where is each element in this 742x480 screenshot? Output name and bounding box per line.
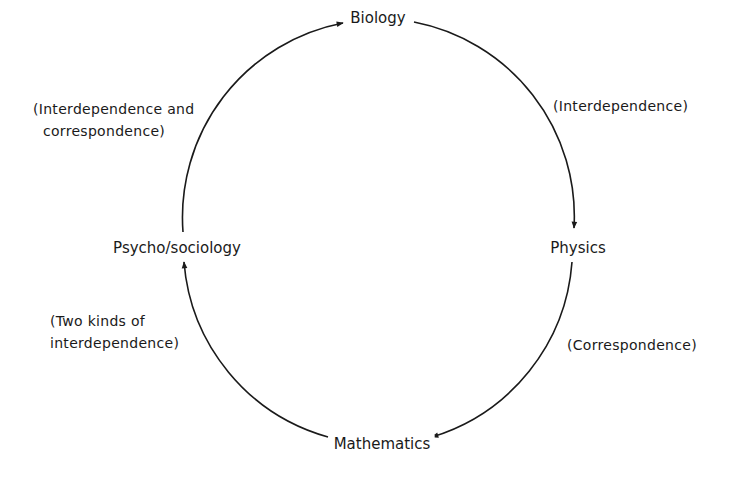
arrow-physics-to-mathematics (432, 262, 572, 437)
edge-label-two-kinds-interdependence: (Two kinds of interdependence) (50, 310, 179, 354)
edge-label-interdependence-and-correspondence: (Interdependence and correspondence) (33, 98, 194, 142)
edge-label-line: (Interdependence and (33, 98, 194, 120)
edge-label-line: (Interdependence) (553, 95, 688, 117)
edge-label-line: (Two kinds of (50, 310, 179, 332)
node-biology: Biology (346, 9, 409, 27)
arrow-mathematics-to-psycho-sociology (184, 262, 328, 437)
edge-label-line: (Correspondence) (567, 334, 697, 356)
node-mathematics: Mathematics (330, 435, 435, 453)
node-psycho-sociology: Psycho/sociology (109, 239, 245, 257)
edge-label-line: interdependence) (50, 332, 179, 354)
arrow-biology-to-physics (414, 22, 574, 228)
cycle-diagram: Biology Physics Mathematics Psycho/socio… (0, 0, 742, 480)
node-physics: Physics (546, 239, 609, 257)
edge-label-interdependence: (Interdependence) (553, 95, 688, 117)
edge-label-line: correspondence) (33, 120, 194, 142)
arrow-psycho-sociology-to-biology (182, 23, 343, 232)
edge-label-correspondence: (Correspondence) (567, 334, 697, 356)
